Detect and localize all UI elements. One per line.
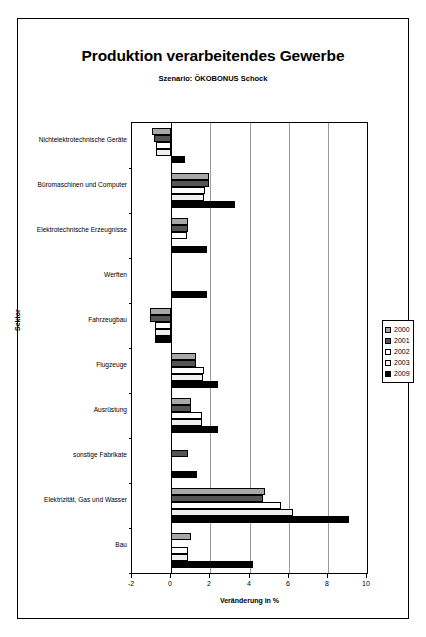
y-axis-tick bbox=[129, 303, 132, 304]
chart-legend: 20002001200220032009 bbox=[382, 320, 414, 383]
bar bbox=[171, 509, 292, 516]
plot-area bbox=[131, 122, 368, 574]
y-axis-tick bbox=[129, 483, 132, 484]
bar bbox=[171, 180, 209, 187]
category-band bbox=[132, 393, 367, 438]
y-axis-category-label: Flugzeuge bbox=[32, 360, 127, 370]
bar bbox=[171, 367, 204, 374]
category-band bbox=[132, 168, 367, 213]
y-axis-category-label: Werften bbox=[32, 270, 127, 280]
x-axis-tick-label: 8 bbox=[317, 580, 337, 587]
legend-swatch-icon bbox=[385, 360, 391, 366]
chart-frame: Produktion verarbeitendes Gewerbe Szenar… bbox=[17, 18, 409, 619]
bar bbox=[171, 156, 185, 163]
bar bbox=[171, 246, 207, 253]
bar bbox=[171, 502, 281, 509]
bar bbox=[155, 322, 172, 329]
bar bbox=[171, 419, 201, 426]
x-axis-tick-label: -2 bbox=[121, 580, 141, 587]
bar bbox=[171, 405, 191, 412]
category-band bbox=[132, 123, 367, 168]
y-axis-category-label: Bau bbox=[32, 540, 127, 550]
x-axis-tick bbox=[131, 574, 132, 578]
bar bbox=[155, 329, 172, 336]
bar bbox=[156, 142, 172, 149]
bar bbox=[171, 353, 195, 360]
bar bbox=[171, 547, 188, 554]
bar bbox=[171, 232, 187, 239]
category-band bbox=[132, 528, 367, 573]
chart-page: Produktion verarbeitendes Gewerbe Szenar… bbox=[0, 0, 426, 637]
bar bbox=[171, 471, 196, 478]
category-band bbox=[132, 303, 367, 348]
legend-swatch-icon bbox=[385, 327, 391, 333]
x-axis-title: Veränderung in % bbox=[131, 597, 368, 604]
x-axis-tick-label: 0 bbox=[160, 580, 180, 587]
bar bbox=[152, 128, 172, 135]
legend-item: 2000 bbox=[385, 324, 410, 335]
y-axis-category-label: Elektrotechnische Erzeugnisse bbox=[32, 225, 127, 235]
legend-swatch-icon bbox=[385, 371, 391, 377]
bar bbox=[171, 173, 209, 180]
y-axis-tick bbox=[129, 528, 132, 529]
bar bbox=[171, 374, 203, 381]
x-axis-tick-label: 2 bbox=[199, 580, 219, 587]
category-band bbox=[132, 438, 367, 483]
x-axis-tick-label: 4 bbox=[239, 580, 259, 587]
bar bbox=[171, 218, 188, 225]
legend-item: 2001 bbox=[385, 335, 410, 346]
x-axis-tick bbox=[288, 574, 289, 578]
bar bbox=[171, 398, 191, 405]
category-band bbox=[132, 213, 367, 258]
chart-subtitle: Szenario: ÖKOBONUS Schock bbox=[18, 74, 408, 83]
y-axis-category-label: sonstige Fabrikate bbox=[32, 450, 127, 460]
y-axis-tick bbox=[129, 258, 132, 259]
legend-label: 2003 bbox=[394, 359, 410, 366]
bar bbox=[171, 412, 202, 419]
x-axis: -20246810 bbox=[131, 574, 368, 596]
legend-swatch-icon bbox=[385, 338, 391, 344]
x-axis-tick-label: 10 bbox=[356, 580, 376, 587]
legend-swatch-icon bbox=[385, 349, 391, 355]
bar bbox=[150, 308, 172, 315]
bar bbox=[171, 516, 349, 523]
bar bbox=[171, 495, 263, 502]
x-axis-tick bbox=[327, 574, 328, 578]
x-axis-tick bbox=[209, 574, 210, 578]
bar bbox=[171, 554, 188, 561]
page-title: Produktion verarbeitendes Gewerbe bbox=[18, 47, 408, 65]
x-axis-tick bbox=[249, 574, 250, 578]
legend-label: 2009 bbox=[394, 370, 410, 377]
y-axis-tick bbox=[129, 213, 132, 214]
bar bbox=[171, 561, 253, 568]
bar bbox=[171, 201, 235, 208]
y-axis-category-label: Nichtelektrotechnische Geräte bbox=[32, 135, 127, 145]
bar bbox=[171, 360, 195, 367]
bar bbox=[171, 194, 204, 201]
y-axis-title: Sektor bbox=[14, 309, 21, 331]
bar bbox=[171, 450, 188, 457]
legend-item: 2003 bbox=[385, 357, 410, 368]
bar bbox=[171, 488, 265, 495]
x-axis-tick bbox=[170, 574, 171, 578]
category-band bbox=[132, 483, 367, 528]
y-axis-labels: Nichtelektrotechnische GeräteBüromaschin… bbox=[30, 122, 127, 574]
bar bbox=[171, 225, 188, 232]
y-axis-category-label: Fahrzeugbau bbox=[32, 315, 127, 325]
bar bbox=[171, 381, 218, 388]
y-axis-tick bbox=[129, 168, 132, 169]
y-axis-tick bbox=[129, 438, 132, 439]
category-band bbox=[132, 348, 367, 393]
legend-label: 2000 bbox=[394, 326, 410, 333]
bar bbox=[156, 149, 171, 156]
legend-item: 2009 bbox=[385, 368, 410, 379]
bar bbox=[171, 426, 218, 433]
bar bbox=[150, 315, 172, 322]
bar bbox=[171, 291, 207, 298]
y-axis-category-label: Ausrüstung bbox=[32, 405, 127, 415]
bar bbox=[155, 336, 172, 343]
y-axis-category-label: Büromaschinen und Computer bbox=[32, 180, 127, 190]
y-axis-tick bbox=[129, 348, 132, 349]
legend-label: 2001 bbox=[394, 337, 410, 344]
bar bbox=[154, 135, 172, 142]
